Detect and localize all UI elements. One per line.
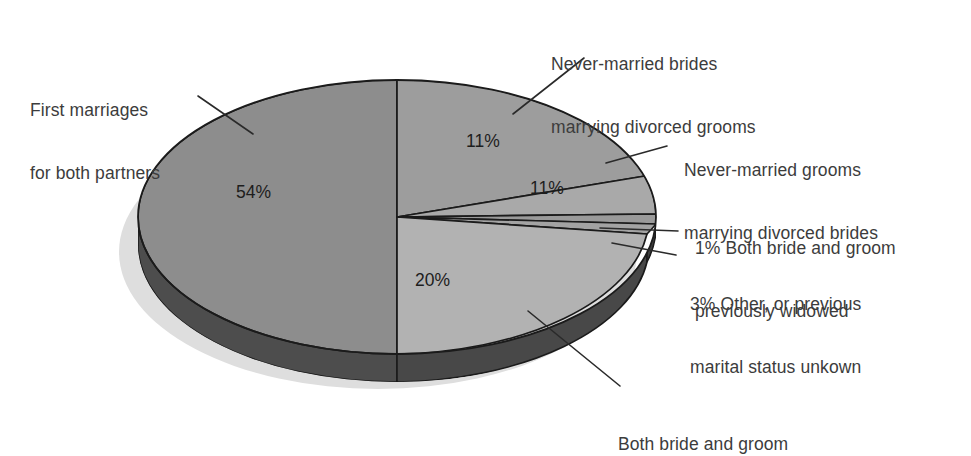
label-other-unknown-line2: marital status unkown bbox=[690, 357, 861, 378]
label-other-unknown-line1: 3% Other, or previous bbox=[690, 294, 861, 315]
label-first-marriages-line2: for both partners bbox=[30, 163, 160, 184]
data-label-never-married-grooms: 11% bbox=[530, 178, 564, 198]
label-both-divorced-line1: Both bride and groom bbox=[618, 434, 788, 455]
label-never-married-brides-line1: Never-married brides bbox=[551, 54, 756, 75]
label-first-marriages: First marriages for both partners bbox=[30, 58, 160, 226]
label-first-marriages-line1: First marriages bbox=[30, 100, 160, 121]
data-label-first-marriages: 54% bbox=[236, 182, 271, 202]
label-both-divorced: Both bride and groom previously divorced bbox=[618, 392, 788, 456]
data-label-both-divorced: 20% bbox=[415, 270, 450, 290]
data-label-never-married-brides: 11% bbox=[466, 131, 500, 151]
pie-chart-figure: First marriages for both partners Never-… bbox=[0, 0, 971, 456]
label-never-married-grooms-line1: Never-married grooms bbox=[684, 160, 878, 181]
